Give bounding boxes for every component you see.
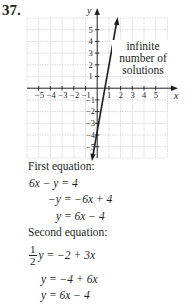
- solution-work: First equation: 6x − y = 4 −y = −6x + 4 …: [28, 158, 112, 304]
- svg-text:−2: −2: [70, 90, 79, 100]
- svg-text:y: y: [86, 5, 92, 16]
- svg-text:5: 5: [89, 25, 93, 35]
- svg-text:x: x: [173, 90, 179, 101]
- annotation-line: solutions: [112, 64, 174, 76]
- svg-text:−4: −4: [47, 90, 57, 100]
- graph-annotation: infinite number of solutions: [112, 40, 174, 76]
- svg-text:−3: −3: [58, 90, 67, 100]
- svg-text:−2: −2: [86, 106, 95, 116]
- svg-text:−3: −3: [86, 118, 95, 128]
- axes: [27, 12, 174, 158]
- fraction-one-half: 1 2: [29, 244, 37, 267]
- svg-text:−5: −5: [35, 90, 44, 100]
- svg-text:1: 1: [107, 90, 111, 100]
- svg-text:3: 3: [89, 48, 93, 58]
- svg-text:−1: −1: [86, 95, 95, 105]
- annotation-line: infinite: [112, 40, 174, 52]
- svg-text:4: 4: [142, 90, 147, 100]
- equation-step: 6x − y = 4: [28, 175, 112, 192]
- svg-text:3: 3: [130, 90, 134, 100]
- coordinate-graph: −5 −4 −3 −2 −1 1 2 3 4 5 5 4 3 2 1 −1 −2…: [0, 0, 195, 162]
- equation-step: −y = −6x + 4: [28, 191, 112, 208]
- equation-step: 1 2 y = −2 + 3x: [28, 241, 112, 271]
- svg-text:2: 2: [119, 90, 123, 100]
- y-axis-arrow-icon: [95, 8, 100, 15]
- annotation-line: number of: [112, 52, 174, 64]
- equation-step: y = 6x − 4: [28, 287, 112, 304]
- svg-text:−4: −4: [86, 130, 96, 140]
- first-equation-heading: First equation:: [28, 158, 112, 175]
- second-equation-heading: Second equation:: [28, 224, 112, 241]
- equation-step: y = 6x − 4: [28, 208, 112, 225]
- svg-text:2: 2: [89, 60, 93, 70]
- svg-text:5: 5: [154, 90, 158, 100]
- svg-text:1: 1: [89, 71, 93, 81]
- equation-step: y = −4 + 6x: [28, 271, 112, 288]
